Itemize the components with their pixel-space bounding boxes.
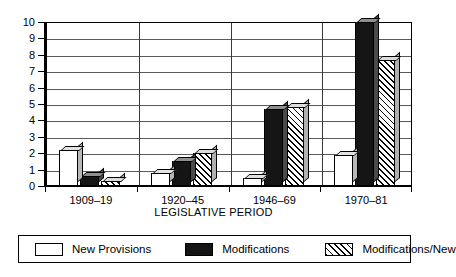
y-tick-label: 4 <box>29 115 35 126</box>
bar-modifications-new <box>101 181 120 186</box>
bar-face <box>376 60 395 186</box>
legend-label: Modifications/New <box>362 243 455 255</box>
y-tick-label: 2 <box>29 148 35 159</box>
bar-group <box>137 22 229 186</box>
legend-swatch-new-provisions <box>35 243 63 256</box>
bar-side-3d <box>304 99 309 182</box>
x-tick-label: 1920–45 <box>161 194 204 206</box>
legend-item: Modifications <box>185 243 289 256</box>
y-tick-label: 5 <box>29 99 35 110</box>
x-tick-mark <box>229 186 230 192</box>
x-tick-label: 1946–69 <box>253 194 296 206</box>
bar-group <box>320 22 412 186</box>
y-tick-mark <box>38 186 45 187</box>
bar-new-provisions <box>334 155 353 186</box>
bar-face <box>151 173 170 186</box>
bar-side-3d <box>374 14 379 182</box>
y-tick-label: 8 <box>29 49 35 60</box>
bar-modifications <box>355 22 374 186</box>
x-tick-label: 1909–19 <box>69 194 112 206</box>
bar-face <box>243 178 262 186</box>
x-tick-mark <box>45 186 46 192</box>
legend-item: New Provisions <box>35 243 151 256</box>
legend: New Provisions Modifications Modificatio… <box>18 235 411 263</box>
y-tick-label: 0 <box>29 181 35 192</box>
bar-new-provisions <box>59 150 78 186</box>
y-tick-label: 7 <box>29 66 35 77</box>
legend-swatch-modifications <box>185 243 213 256</box>
legend-swatch-modifications-new <box>325 243 353 256</box>
x-tick-label: 1970–81 <box>345 194 388 206</box>
bars-layer <box>45 22 412 186</box>
y-tick-label: 3 <box>29 131 35 142</box>
x-tick-mark <box>137 186 138 192</box>
bar-modifications-new <box>376 60 395 186</box>
y-tick-label: 9 <box>29 33 35 44</box>
legend-item: Modifications/New <box>325 243 455 256</box>
y-tick-label: 6 <box>29 82 35 93</box>
bar-group <box>229 22 321 186</box>
bar-face <box>59 150 78 186</box>
x-tick-mark <box>411 186 412 192</box>
x-tick-mark <box>320 186 321 192</box>
y-tick-label: 10 <box>23 17 35 28</box>
y-tick-label: 1 <box>29 164 35 175</box>
bar-new-provisions <box>243 178 262 186</box>
bar-new-provisions <box>151 173 170 186</box>
bar-face <box>334 155 353 186</box>
bar-face <box>355 22 374 186</box>
y-axis: 012345678910 <box>0 14 45 194</box>
legend-label: Modifications <box>222 243 289 255</box>
bar-side-3d <box>395 52 400 182</box>
bar-side-3d <box>283 101 288 182</box>
legend-label: New Provisions <box>72 243 151 255</box>
x-axis-title: LEGISLATIVE PERIOD <box>0 206 427 218</box>
bar-group <box>45 22 137 186</box>
bar-top-3d <box>102 177 127 182</box>
